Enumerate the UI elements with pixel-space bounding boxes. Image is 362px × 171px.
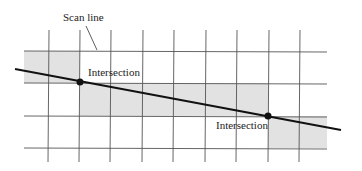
scan-line-diagram: Scan line Intersection Intersection [0,0,362,171]
intersection-label-2: Intersection [216,119,268,131]
shaded-span-row1 [24,51,80,83]
scan-line-label: Scan line [63,11,104,23]
shaded-span-row3 [268,116,327,148]
intersection-point-1 [77,79,84,86]
scan-line-pointer [86,26,97,50]
edge-line [15,69,341,130]
intersection-label-1: Intersection [88,66,140,78]
